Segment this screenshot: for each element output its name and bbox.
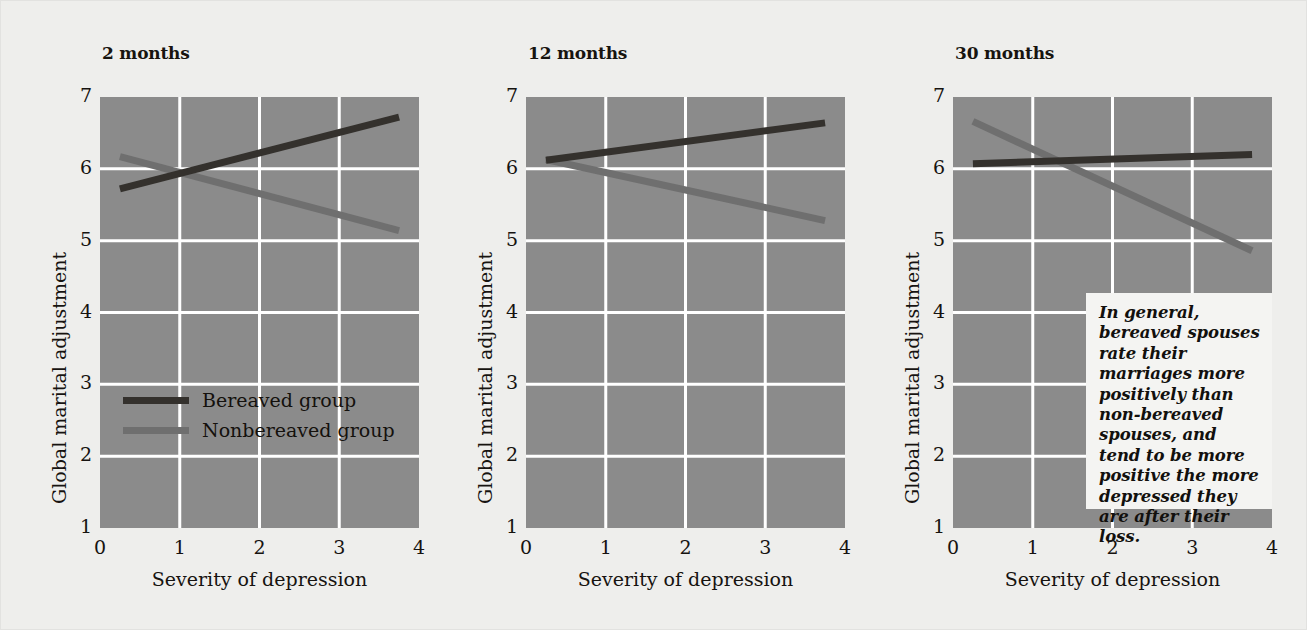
plot-area-2: [526, 97, 845, 528]
y-tick-label: 3: [923, 371, 945, 393]
y-axis-label-2: Global marital adjustment: [474, 252, 496, 504]
x-tick-label: 1: [169, 536, 191, 558]
annotation-text: In general, bereaved spouses rate their …: [1099, 303, 1260, 548]
figure-canvas: 2 months123456701234Severity of depressi…: [0, 0, 1307, 630]
y-tick-label: 5: [496, 228, 518, 250]
chart-legend: Bereaved groupNonbereaved group: [123, 385, 395, 445]
y-tick-label: 7: [923, 84, 945, 106]
y-tick-label: 7: [70, 84, 92, 106]
x-tick-label: 2: [675, 536, 697, 558]
y-tick-label: 1: [496, 515, 518, 537]
y-tick-label: 5: [70, 228, 92, 250]
y-tick-label: 4: [70, 300, 92, 322]
x-tick-label: 4: [1261, 536, 1283, 558]
legend-swatch-nonbereaved: [123, 427, 189, 434]
annotation-callout: In general, bereaved spouses rate their …: [1086, 293, 1272, 509]
y-tick-label: 7: [496, 84, 518, 106]
x-tick-label: 4: [408, 536, 430, 558]
y-tick-label: 4: [923, 300, 945, 322]
legend-label: Bereaved group: [202, 389, 356, 411]
x-tick-label: 0: [89, 536, 111, 558]
panel-title-1: 2 months: [102, 43, 190, 63]
legend-item-nonbereaved: Nonbereaved group: [123, 415, 395, 445]
x-tick-label: 0: [942, 536, 964, 558]
series-line-bereaved: [973, 154, 1252, 163]
y-tick-label: 6: [70, 156, 92, 178]
y-tick-label: 2: [496, 443, 518, 465]
panel-title-2: 12 months: [528, 43, 627, 63]
x-axis-label-1: Severity of depression: [100, 568, 419, 590]
plot-svg-2: [526, 97, 845, 528]
x-tick-label: 1: [595, 536, 617, 558]
y-tick-label: 2: [70, 443, 92, 465]
x-axis-label-2: Severity of depression: [526, 568, 845, 590]
x-tick-label: 3: [328, 536, 350, 558]
x-tick-label: 4: [834, 536, 856, 558]
plot-area-1: [100, 97, 419, 528]
y-tick-label: 4: [496, 300, 518, 322]
x-tick-label: 3: [754, 536, 776, 558]
panel-title-3: 30 months: [955, 43, 1054, 63]
x-tick-label: 2: [249, 536, 271, 558]
y-tick-label: 1: [923, 515, 945, 537]
legend-item-bereaved: Bereaved group: [123, 385, 395, 415]
x-tick-label: 0: [515, 536, 537, 558]
y-tick-label: 3: [496, 371, 518, 393]
plot-svg-1: [100, 97, 419, 528]
y-tick-label: 5: [923, 228, 945, 250]
x-axis-label-3: Severity of depression: [953, 568, 1272, 590]
y-tick-label: 1: [70, 515, 92, 537]
y-tick-label: 2: [923, 443, 945, 465]
y-tick-label: 3: [70, 371, 92, 393]
x-tick-label: 1: [1022, 536, 1044, 558]
y-axis-label-1: Global marital adjustment: [48, 252, 70, 504]
legend-swatch-bereaved: [123, 397, 189, 404]
y-tick-label: 6: [923, 156, 945, 178]
y-tick-label: 6: [496, 156, 518, 178]
legend-label: Nonbereaved group: [202, 419, 395, 441]
y-axis-label-3: Global marital adjustment: [901, 252, 923, 504]
